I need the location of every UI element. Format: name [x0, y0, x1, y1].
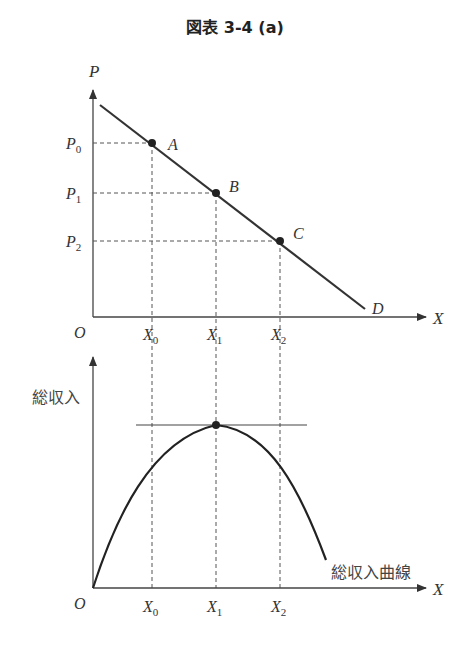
p-axis-label: P — [88, 62, 99, 81]
p0-label: P0 — [65, 135, 82, 155]
x2-label-bottom: X2 — [270, 598, 286, 618]
p2-label: P2 — [65, 233, 81, 253]
point-a-label: A — [167, 136, 178, 153]
demand-chart: P X O A B C D P0 P1 P2 X0 X1 X2 — [65, 62, 444, 588]
x0-label-top: X0 — [142, 326, 159, 346]
total-revenue-curve — [93, 425, 326, 588]
point-d-label: D — [371, 300, 384, 317]
origin-label-top: O — [74, 324, 86, 341]
x-axis-label-bottom: X — [432, 580, 444, 599]
guide-lines — [93, 143, 280, 588]
revenue-chart: 総収入 総収入曲線 X O X0 X1 X2 — [32, 357, 444, 618]
demand-line — [100, 105, 365, 309]
point-a — [148, 139, 156, 147]
point-c — [276, 237, 284, 245]
curve-label: 総収入曲線 — [331, 563, 411, 582]
diagram: P X O A B C D P0 P1 P2 X0 X1 X2 総収入 総収入曲… — [0, 0, 470, 647]
x1-label-top: X1 — [206, 326, 222, 346]
point-b-label: B — [229, 178, 239, 195]
x2-label-top: X2 — [270, 326, 286, 346]
origin-label-bottom: O — [74, 595, 86, 612]
x-axis-label-top: X — [432, 309, 444, 328]
revenue-axis-label: 総収入 — [32, 388, 80, 407]
x0-label-bottom: X0 — [142, 598, 159, 618]
revenue-curve — [93, 371, 216, 588]
p1-label: P1 — [65, 185, 81, 205]
revenue-max-point — [212, 421, 220, 429]
point-b — [212, 189, 220, 197]
x1-label-bottom: X1 — [206, 598, 222, 618]
point-c-label: C — [293, 225, 304, 242]
